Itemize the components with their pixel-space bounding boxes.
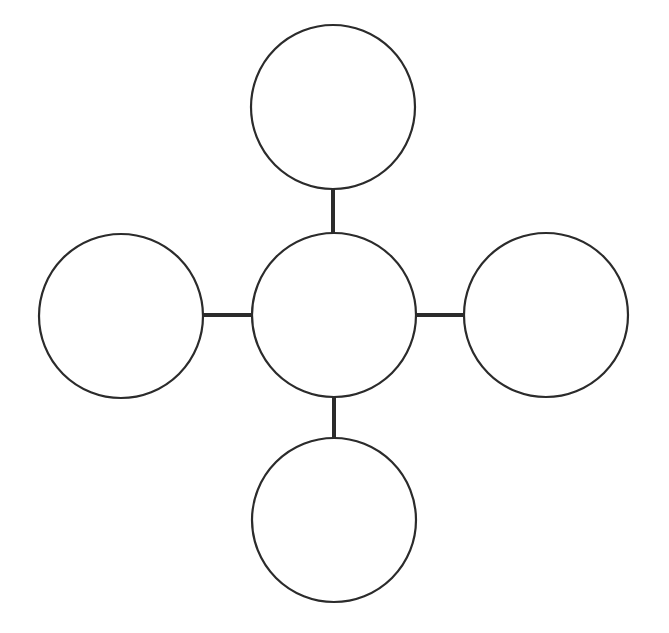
node-circle-left [39,234,203,398]
node-circle-top [251,25,415,189]
nodes [39,25,628,602]
hub-spoke-diagram [0,0,669,633]
node-circle-right [464,233,628,397]
node-circle-center [252,233,416,397]
node-circle-bottom [252,438,416,602]
